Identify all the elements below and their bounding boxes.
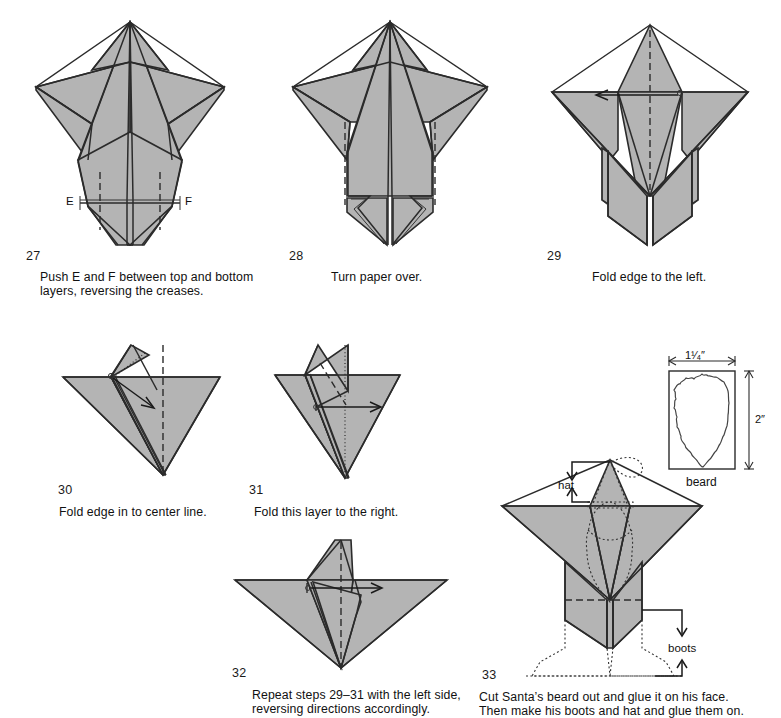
step-27-caption: Push E and F between top and bottom laye… xyxy=(40,270,255,299)
step-30-caption: Fold edge in to center line. xyxy=(59,505,269,519)
step-28: 28 Turn paper over. xyxy=(265,0,515,300)
paper-bottom-right-point xyxy=(393,198,433,245)
paper-top-flap xyxy=(111,345,149,377)
step-28-caption: Turn paper over. xyxy=(331,270,531,284)
step-32: 32 Repeat steps 29–31 with the left side… xyxy=(215,540,475,718)
boots-arrow-down xyxy=(642,610,682,634)
step-30-number: 30 xyxy=(58,483,72,497)
step-29-diagram xyxy=(520,0,780,250)
label-E: E xyxy=(66,195,74,207)
step-33-diagram xyxy=(470,450,781,685)
step-27: E F 27 Push E and F between top and bott… xyxy=(0,0,260,300)
step-27-figure xyxy=(0,0,260,250)
step-31: 31 Fold this layer to the right. xyxy=(240,345,450,525)
step-28-diagram xyxy=(265,0,515,250)
step-28-figure xyxy=(265,0,515,250)
paper-body-center xyxy=(607,600,613,648)
step-27-diagram xyxy=(0,0,260,250)
paper-side-tab-left xyxy=(602,148,608,204)
step-31-caption: Fold this layer to the right. xyxy=(254,505,464,519)
step-27-number: 27 xyxy=(26,249,40,263)
step-31-number: 31 xyxy=(249,483,263,497)
step-32-number: 32 xyxy=(232,666,246,680)
step-31-figure xyxy=(240,345,450,485)
step-30-diagram xyxy=(45,345,255,485)
paper-center-top xyxy=(307,540,353,580)
step-29-figure xyxy=(520,0,780,250)
step-30-figure xyxy=(45,345,255,485)
step-32-figure xyxy=(215,540,475,680)
label-hat: hat xyxy=(558,479,574,491)
step-32-diagram xyxy=(215,540,475,680)
label-boots: boots xyxy=(668,642,696,654)
step-33: hat boots 33 Cut Santa’s beard out and g… xyxy=(470,450,781,718)
step-29: 29 Fold edge to the left. xyxy=(520,0,780,300)
step-30: 30 Fold edge in to center line. xyxy=(45,345,255,525)
paper-side-tab-right xyxy=(692,148,698,204)
step-29-caption: Fold edge to the left. xyxy=(592,270,781,284)
boots-arrow-up xyxy=(655,662,682,676)
step-33-figure xyxy=(470,450,781,685)
step-31-diagram xyxy=(240,345,450,485)
beard-width-label: 1¹⁄₄″ xyxy=(685,349,705,361)
step-33-number: 33 xyxy=(482,668,496,682)
paper-bottom-left-point xyxy=(347,198,387,245)
beard-height-label: 2″ xyxy=(755,413,765,425)
step-29-number: 29 xyxy=(547,249,561,263)
label-F: F xyxy=(185,195,192,207)
step-28-number: 28 xyxy=(289,249,303,263)
step-33-caption: Cut Santa’s beard out and glue it on his… xyxy=(479,690,779,718)
step-32-caption: Repeat steps 29–31 with the left side, r… xyxy=(252,688,482,717)
